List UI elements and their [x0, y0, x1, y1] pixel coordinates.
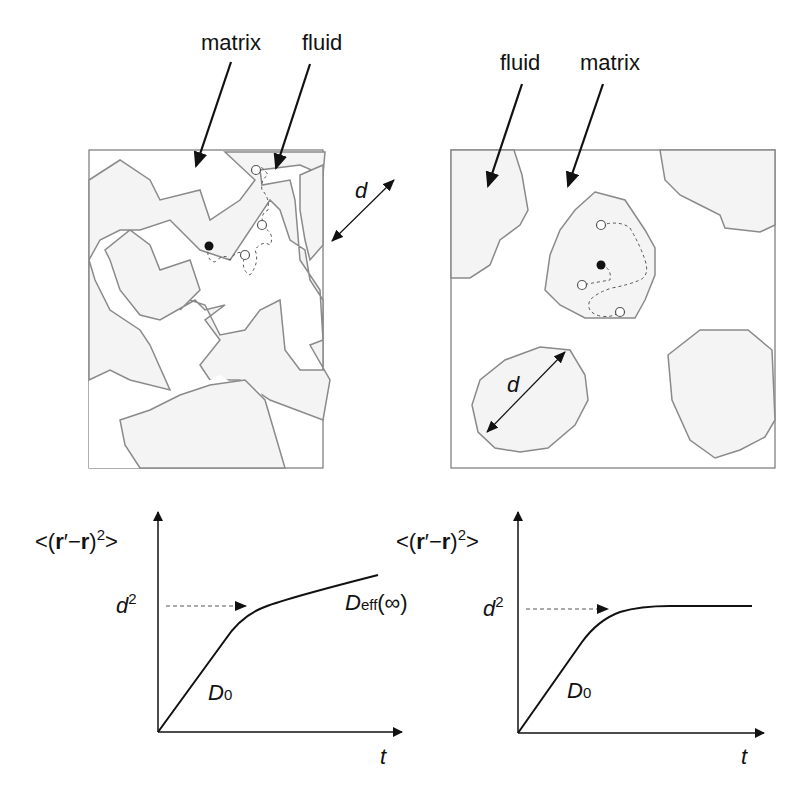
- particle-position-icon: [616, 308, 625, 317]
- d0-slope-label: D0: [208, 680, 232, 706]
- x-axis-label: t: [380, 744, 386, 770]
- msd-curve: [518, 606, 752, 733]
- particle-position-icon: [252, 166, 261, 175]
- matrix-label: matrix: [580, 50, 640, 76]
- d2-label: d2: [116, 590, 137, 619]
- particle-position-icon: [578, 281, 587, 290]
- deff-label: Deff(∞): [345, 590, 408, 616]
- right-porous-panel: [451, 84, 775, 468]
- y-axis-label: <(r′−r)2>: [396, 526, 479, 555]
- d2-label: d2: [483, 593, 504, 622]
- right-msd-plot: [518, 512, 764, 733]
- figure-canvas: [0, 0, 803, 802]
- size-d-label: d: [355, 178, 367, 204]
- fluid-label: fluid: [500, 50, 540, 76]
- size-d-label: d: [507, 372, 519, 398]
- left-porous-panel: [89, 62, 394, 468]
- d0-slope-label: D0: [567, 678, 591, 704]
- particle-position-icon: [258, 221, 267, 230]
- matrix-label: matrix: [201, 30, 261, 56]
- start-particle-icon: [597, 261, 606, 270]
- fluid-label: fluid: [302, 30, 342, 56]
- start-particle-icon: [205, 242, 214, 251]
- y-axis-label: <(r′−r)2>: [35, 526, 118, 555]
- x-axis-label: t: [741, 744, 747, 770]
- particle-position-icon: [241, 251, 250, 260]
- left-msd-plot: [158, 512, 402, 732]
- particle-position-icon: [597, 221, 606, 230]
